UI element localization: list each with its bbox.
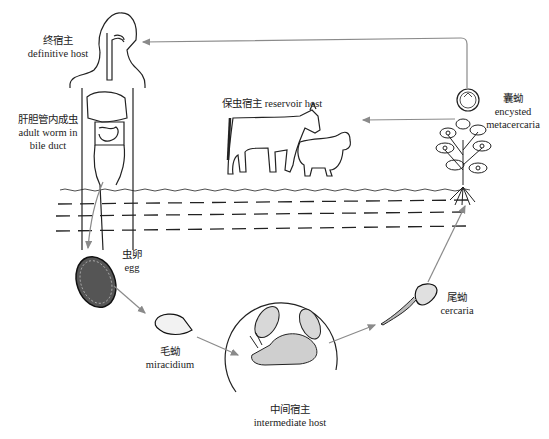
miracidium-zh: 毛蚴 — [130, 345, 210, 358]
snail-illustration — [225, 302, 337, 392]
intermediate-host-label: 中间宿主 intermediate host — [235, 403, 345, 429]
adult-worm-en-1: adult worm in — [8, 126, 88, 139]
cow-illustration — [228, 103, 320, 174]
metacercaria-label: 囊蚴 encysted metacercaria — [478, 92, 548, 131]
miracidium-illustration — [155, 314, 192, 334]
metacercaria-cyst-icon — [457, 89, 479, 111]
cercaria-label: 尾蚴 cercaria — [427, 291, 487, 317]
egg-en: egg — [112, 261, 152, 274]
reservoir-host-label: 保虫宿主 reservoir host — [222, 97, 362, 110]
intermediate-host-zh: 中间宿主 — [235, 403, 345, 416]
metacercaria-en-2: metacercaria — [478, 118, 548, 131]
metacercaria-en-1: encysted — [478, 105, 548, 118]
egg-zh: 虫卵 — [112, 248, 152, 261]
life-cycle-diagram — [0, 0, 549, 439]
metacercaria-zh: 囊蚴 — [478, 92, 548, 105]
arrow-metacercaria-to-definitive-host — [143, 38, 467, 88]
reservoir-host-zh: 保虫宿主 — [222, 97, 262, 109]
arrow-cercaria-to-metacercaria — [428, 206, 465, 282]
water-plant-illustration — [436, 119, 491, 205]
egg-label: 虫卵 egg — [112, 248, 152, 274]
adult-worm-label: 肝胆管内成虫 adult worm in bile duct — [8, 113, 88, 152]
intermediate-host-en: intermediate host — [235, 416, 345, 429]
definitive-host-zh: 终宿主 — [18, 34, 98, 47]
miracidium-label: 毛蚴 miracidium — [130, 345, 210, 371]
arrow-metacercaria-to-reservoir-host — [363, 119, 455, 120]
reservoir-host-en: reservoir host — [265, 98, 322, 109]
cercaria-en: cercaria — [427, 304, 487, 317]
adult-worm-en-2: bile duct — [8, 139, 88, 152]
definitive-host-en: definitive host — [18, 47, 98, 60]
adult-worm-zh: 肝胆管内成虫 — [8, 113, 88, 126]
sheep-illustration — [298, 132, 350, 176]
cercaria-zh: 尾蚴 — [427, 291, 487, 304]
arrow-snail-to-cercaria — [329, 325, 375, 343]
definitive-host-label: 终宿主 definitive host — [18, 34, 98, 60]
miracidium-en: miracidium — [130, 358, 210, 371]
water-surface — [56, 189, 470, 231]
arrow-egg-to-miracidium — [114, 286, 145, 313]
